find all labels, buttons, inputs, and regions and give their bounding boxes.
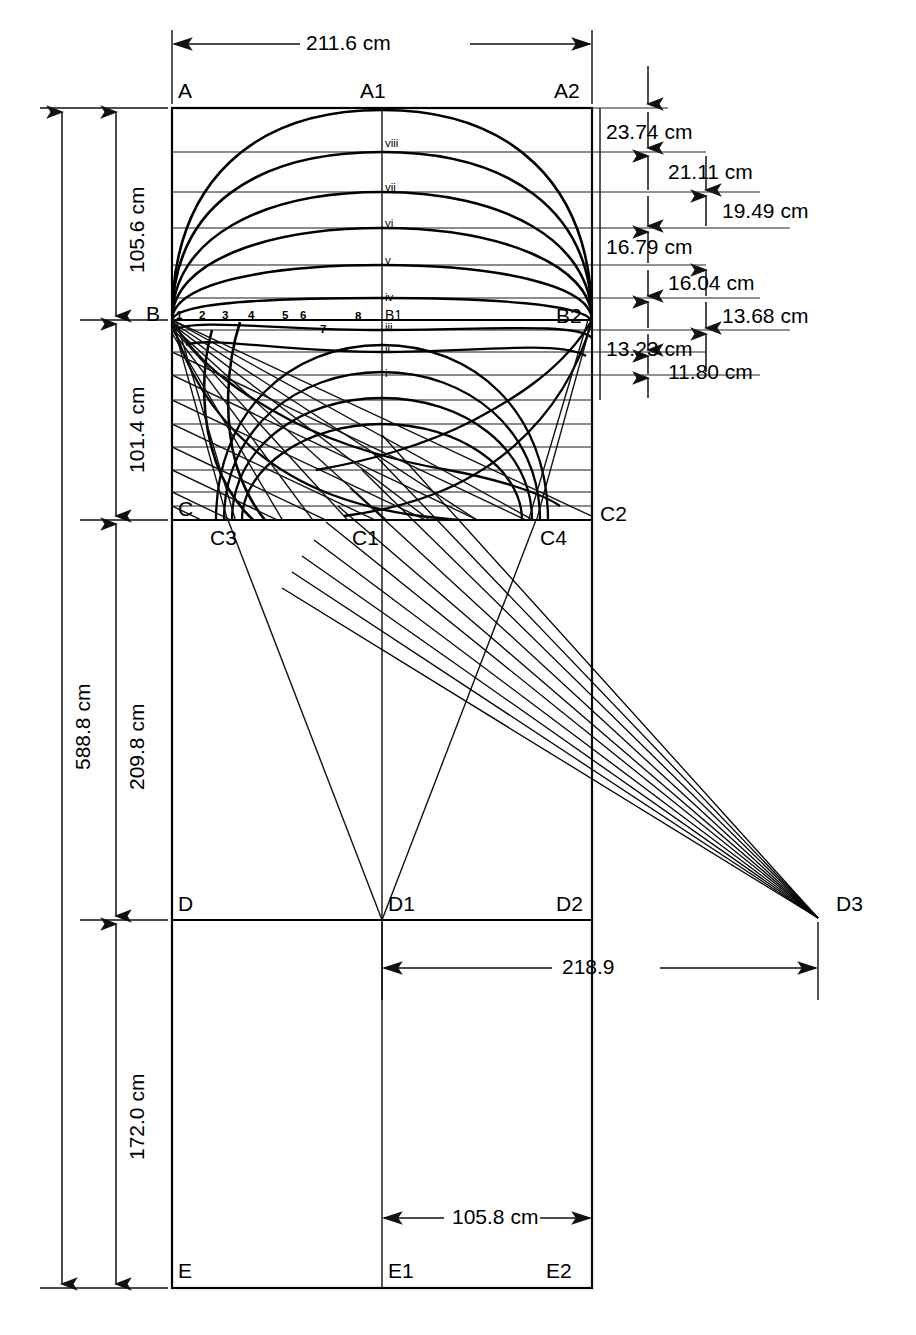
point-label-d2: D2 — [556, 893, 583, 914]
segment-label-209: 209.8 cm — [126, 704, 147, 790]
diagram-canvas: 211.6 cm 588.8 cm 105.6 cm 101.4 cm 209.… — [0, 0, 916, 1335]
segment-label-101: 101.4 cm — [126, 387, 147, 473]
point-label-d3: D3 — [836, 893, 863, 914]
numeric-marker-6: 6 — [300, 310, 306, 322]
numeric-marker-8: 8 — [355, 311, 361, 323]
point-label-e2: E2 — [546, 1260, 572, 1281]
point-label-c2: C2 — [600, 503, 627, 524]
numeric-marker-5: 5 — [282, 310, 288, 322]
segment-label-172: 172.0 cm — [126, 1074, 147, 1160]
left-dimension-chain — [40, 108, 168, 1288]
point-label-b2: B2 — [556, 305, 582, 326]
right-dimension-19: 19.49 cm — [722, 200, 808, 221]
arc-construction — [172, 110, 705, 760]
roman-marker-v: v — [385, 255, 391, 267]
numeric-marker-4: 4 — [248, 310, 254, 322]
chord-family-hatch — [172, 352, 705, 760]
point-label-c4: C4 — [540, 527, 567, 548]
top-dimension-label: 211.6 cm — [306, 32, 391, 53]
numeric-marker-7: 7 — [320, 324, 326, 336]
roman-marker-ii: ii — [385, 344, 390, 356]
point-label-a: A — [178, 80, 192, 101]
right-dimension-11-80: 11.80 cm — [668, 361, 753, 382]
overall-height-label: 588.8 cm — [72, 684, 93, 770]
roman-marker-iii: iii — [385, 322, 393, 334]
roman-marker-viii: viii — [385, 138, 398, 150]
segment-label-105: 105.6 cm — [126, 187, 147, 273]
numeric-marker-3: 3 — [222, 310, 228, 322]
point-label-b1: B1 — [385, 308, 402, 322]
bottom-dimension-218-label: 218.9 — [562, 956, 615, 977]
right-dimension-16-04: 16.04 cm — [668, 272, 754, 293]
right-dimension-16-79: 16.79 cm — [606, 236, 692, 257]
roman-marker-iv: iv — [385, 292, 393, 304]
point-label-c3: C3 — [210, 527, 237, 548]
roman-marker-vii: vii — [385, 182, 396, 194]
roman-marker-i: i — [385, 368, 388, 380]
point-label-e1: E1 — [388, 1260, 414, 1281]
point-label-c1: C1 — [352, 527, 379, 548]
point-label-d1: D1 — [388, 893, 415, 914]
point-label-a1: A1 — [360, 80, 386, 101]
point-label-e: E — [178, 1260, 192, 1281]
numeric-marker-2: 2 — [199, 310, 205, 322]
right-dimension-13-68: 13.68 cm — [722, 305, 808, 326]
right-dimension-23: 23.74 cm — [606, 121, 692, 142]
fan-to-d3 — [282, 435, 818, 918]
bottom-dimension-105-label: 105.8 cm — [452, 1206, 538, 1227]
main-frame — [172, 108, 592, 1288]
right-dimension-13-23: 13.23 cm — [606, 338, 692, 359]
point-label-a2: A2 — [554, 80, 580, 101]
numeric-marker-1: 1 — [176, 310, 182, 322]
roman-marker-vi: vi — [385, 218, 393, 230]
point-label-d: D — [178, 893, 193, 914]
point-label-b: B — [146, 303, 160, 324]
point-label-c: C — [178, 498, 193, 519]
right-dimension-21: 21.11 cm — [668, 161, 753, 182]
